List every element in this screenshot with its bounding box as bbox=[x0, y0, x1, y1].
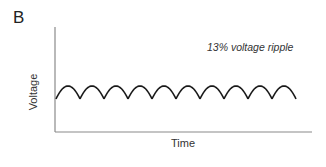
ripple-arch-9 bbox=[248, 86, 272, 99]
ripple-arch-10 bbox=[272, 86, 296, 99]
ripple-arch-7 bbox=[200, 86, 224, 99]
ripple-arch-8 bbox=[224, 86, 248, 99]
ripple-arch-1 bbox=[56, 86, 80, 99]
voltage-series bbox=[56, 86, 296, 99]
ripple-arch-4 bbox=[128, 86, 152, 99]
chart-plot bbox=[0, 0, 326, 167]
ripple-arch-5 bbox=[152, 86, 176, 99]
ripple-arch-3 bbox=[104, 86, 128, 99]
ripple-arch-2 bbox=[80, 86, 104, 99]
ripple-arch-6 bbox=[176, 86, 200, 99]
